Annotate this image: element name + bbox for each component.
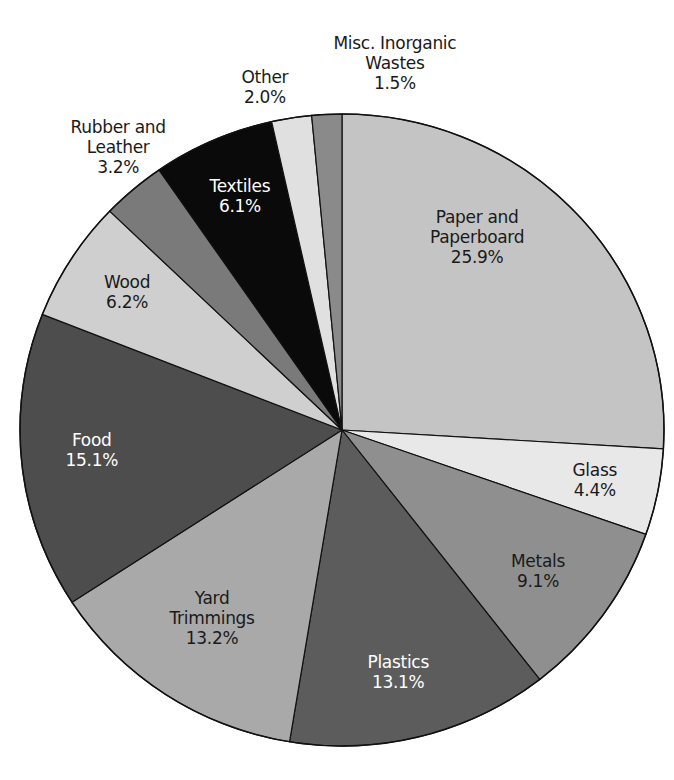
slice-label-glass: Glass4.4% <box>573 460 618 500</box>
slice-percent: 2.0% <box>242 87 289 107</box>
slice-percent: 1.5% <box>334 73 457 93</box>
slice-name: Glass <box>573 460 618 480</box>
outside-label-misc-inorganic-wastes: Misc. InorganicWastes1.5% <box>334 33 457 93</box>
slice-name: Trimmings <box>170 608 255 628</box>
outside-label-other: Other2.0% <box>242 67 289 107</box>
outside-label-rubber-and-leather: Rubber andLeather3.2% <box>71 117 166 177</box>
slice-percent: 3.2% <box>71 157 166 177</box>
slice-name: Plastics <box>368 652 429 672</box>
slice-label-food: Food15.1% <box>66 430 119 470</box>
slice-label-paper-and-paperboard: Paper andPaperboard25.9% <box>430 207 524 267</box>
slice-name: Metals <box>511 551 565 571</box>
slice-percent: 25.9% <box>430 247 524 267</box>
slice-label-metals: Metals9.1% <box>511 551 565 591</box>
slice-percent: 13.2% <box>170 628 255 648</box>
slice-name: Leather <box>71 137 166 157</box>
slice-percent: 4.4% <box>573 480 618 500</box>
slice-name: Misc. Inorganic <box>334 33 457 53</box>
slice-name: Food <box>66 430 119 450</box>
slice-percent: 15.1% <box>66 450 119 470</box>
slice-name: Paper and <box>430 207 524 227</box>
slice-name: Wood <box>104 272 150 292</box>
slice-name: Textiles <box>210 176 271 196</box>
slice-name: Wastes <box>334 53 457 73</box>
slice-percent: 6.2% <box>104 292 150 312</box>
slice-percent: 9.1% <box>511 571 565 591</box>
slice-name: Yard <box>170 588 255 608</box>
slice-label-wood: Wood6.2% <box>104 272 150 312</box>
pie-slice-paper-and-paperboard <box>342 114 664 449</box>
slice-label-yard-trimmings: YardTrimmings13.2% <box>170 588 255 648</box>
slice-percent: 6.1% <box>210 196 271 216</box>
slice-name: Paperboard <box>430 227 524 247</box>
slice-name: Other <box>242 67 289 87</box>
slice-name: Rubber and <box>71 117 166 137</box>
slice-label-plastics: Plastics13.1% <box>368 652 429 692</box>
slice-label-textiles: Textiles6.1% <box>210 176 271 216</box>
slice-percent: 13.1% <box>368 672 429 692</box>
